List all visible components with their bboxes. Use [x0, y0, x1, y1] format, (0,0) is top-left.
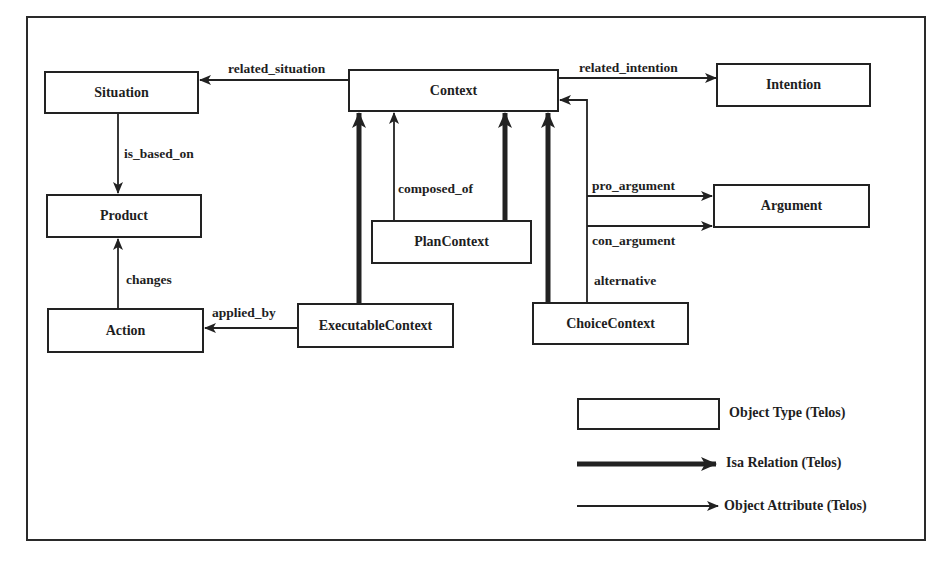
node-context: Context — [348, 69, 559, 112]
label-alternative: alternative — [594, 273, 656, 289]
node-label: Action — [106, 323, 146, 339]
legend-object-type-box — [577, 398, 720, 430]
label-pro-argument: pro_argument — [592, 178, 675, 194]
node-choice-context: ChoiceContext — [532, 302, 689, 345]
legend-object-attribute-label: Object Attribute (Telos) — [724, 498, 867, 514]
node-label: Intention — [766, 77, 821, 93]
node-executable-context: ExecutableContext — [297, 303, 454, 348]
node-product: Product — [46, 194, 202, 238]
node-label: Product — [100, 208, 148, 224]
node-label: Situation — [94, 85, 148, 101]
label-related-intention: related_intention — [579, 60, 678, 76]
node-label: PlanContext — [414, 234, 489, 250]
node-plan-context: PlanContext — [371, 220, 532, 264]
edge-alternative — [560, 100, 587, 302]
node-label: ExecutableContext — [319, 318, 433, 334]
label-composed-of: composed_of — [398, 181, 473, 197]
label-applied-by: applied_by — [212, 305, 276, 321]
node-argument: Argument — [713, 184, 870, 228]
node-action: Action — [47, 308, 204, 353]
label-related-situation: related_situation — [228, 61, 325, 77]
legend-object-type-label: Object Type (Telos) — [729, 405, 845, 421]
label-changes: changes — [126, 272, 172, 288]
label-is-based-on: is_based_on — [124, 146, 194, 162]
legend-isa-relation-label: Isa Relation (Telos) — [726, 455, 841, 471]
node-intention: Intention — [716, 63, 871, 107]
node-label: ChoiceContext — [566, 316, 655, 332]
node-label: Context — [430, 83, 477, 99]
label-con-argument: con_argument — [592, 233, 675, 249]
node-situation: Situation — [44, 71, 199, 114]
node-label: Argument — [761, 198, 822, 214]
